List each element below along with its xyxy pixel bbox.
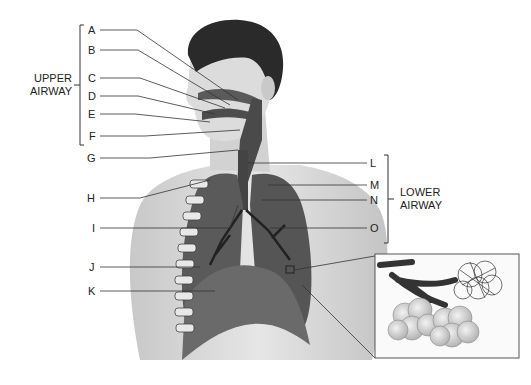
- label-m: M: [370, 180, 379, 191]
- label-l: L: [370, 158, 376, 169]
- label-k: K: [88, 286, 95, 297]
- label-h: H: [87, 193, 95, 204]
- upper-airway-line2: AIRWAY: [22, 85, 72, 98]
- label-i: I: [92, 223, 95, 234]
- upper-airway-bracket: [74, 25, 84, 145]
- label-g: G: [87, 153, 96, 164]
- label-e: E: [88, 109, 95, 120]
- ear: [261, 76, 275, 100]
- label-j: J: [89, 262, 95, 273]
- label-n: N: [370, 195, 378, 206]
- upper-airway-label: UPPER AIRWAY: [22, 72, 72, 98]
- upper-airway-line1: UPPER: [22, 72, 72, 85]
- label-a: A: [88, 25, 95, 36]
- label-b: B: [88, 45, 95, 56]
- label-c: C: [88, 73, 96, 84]
- label-o: O: [370, 223, 379, 234]
- label-f: F: [89, 131, 96, 142]
- diagram: UPPER AIRWAY LOWER AIRWAY A B C D E F G …: [0, 0, 531, 385]
- lower-airway-line1: LOWER: [400, 186, 460, 199]
- lower-airway-label: LOWER AIRWAY: [400, 186, 460, 212]
- alveoli-inset: [375, 254, 519, 358]
- label-d: D: [88, 91, 96, 102]
- lower-airway-line2: AIRWAY: [400, 199, 460, 212]
